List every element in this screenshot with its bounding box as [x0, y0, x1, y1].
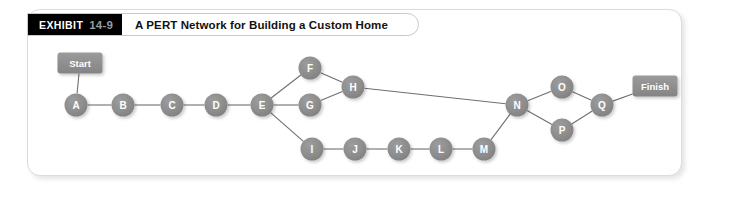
node-d[interactable]: D — [205, 94, 228, 117]
node-layer: StartABCDEFGHIJKLMNOPQFinish — [58, 53, 678, 161]
node-l[interactable]: L — [430, 138, 453, 161]
node-label: M — [480, 144, 488, 155]
node-label: B — [119, 100, 126, 111]
node-g[interactable]: G — [299, 94, 322, 117]
node-i[interactable]: I — [301, 138, 324, 161]
node-label: N — [513, 100, 520, 111]
edge-g-h — [321, 91, 343, 100]
node-e[interactable]: E — [251, 94, 274, 117]
node-label: G — [306, 100, 314, 111]
node-label: C — [168, 100, 175, 111]
edge-e-f — [271, 75, 301, 98]
node-label: K — [395, 144, 403, 155]
edge-q-finish — [613, 94, 633, 101]
edge-p-q — [572, 111, 593, 124]
node-finish[interactable]: Finish — [633, 76, 678, 97]
node-label: I — [311, 144, 314, 155]
edge-n-o — [528, 91, 552, 100]
node-label: A — [72, 100, 79, 111]
exhibit-number: 14-9 — [89, 19, 113, 31]
node-start[interactable]: Start — [58, 53, 103, 74]
edge-f-h — [321, 73, 343, 83]
node-p[interactable]: P — [551, 119, 574, 142]
node-label: E — [259, 100, 266, 111]
node-b[interactable]: B — [112, 94, 135, 117]
node-label: H — [349, 82, 356, 93]
exhibit-word: EXHIBIT — [39, 19, 83, 31]
node-label: J — [352, 144, 358, 155]
edge-start-a — [77, 74, 79, 94]
node-f[interactable]: F — [299, 57, 322, 80]
node-q[interactable]: Q — [591, 94, 614, 117]
node-label: L — [438, 144, 444, 155]
terminal-label: Finish — [641, 81, 669, 92]
node-h[interactable]: H — [342, 76, 365, 99]
node-n[interactable]: N — [506, 94, 529, 117]
node-label: P — [559, 125, 566, 136]
edge-n-p — [527, 111, 552, 125]
exhibit-title: A PERT Network for Building a Custom Hom… — [122, 14, 388, 35]
edge-e-i — [271, 113, 304, 142]
node-j[interactable]: J — [344, 138, 367, 161]
edge-o-q — [572, 92, 591, 101]
terminal-label: Start — [69, 58, 91, 69]
exhibit-header: EXHIBIT 14-9 A PERT Network for Building… — [27, 13, 419, 36]
node-label: O — [558, 82, 566, 93]
edge-h-n — [364, 88, 505, 104]
exhibit-tag: EXHIBIT 14-9 — [28, 14, 122, 35]
node-label: Q — [598, 100, 606, 111]
node-label: F — [307, 63, 313, 74]
exhibit-figure: StartABCDEFGHIJKLMNOPQFinish EXHIBIT 14-… — [0, 0, 731, 204]
node-c[interactable]: C — [161, 94, 184, 117]
edge-m-n — [491, 114, 510, 140]
node-label: D — [212, 100, 219, 111]
node-a[interactable]: A — [65, 94, 88, 117]
node-o[interactable]: O — [551, 76, 574, 99]
node-m[interactable]: M — [473, 138, 496, 161]
node-k[interactable]: K — [388, 138, 411, 161]
